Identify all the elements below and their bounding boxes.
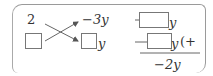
sum-term: −2y (154, 58, 181, 71)
middle-bottom-blank-box[interactable] (81, 33, 97, 49)
right-top-suffix: y (169, 16, 176, 29)
right-top-blank-box[interactable] (139, 12, 169, 28)
middle-top-term: −3y (82, 13, 109, 26)
middle-bottom-suffix: y (98, 37, 105, 50)
left-top-value: 2 (27, 13, 35, 26)
right-bottom-blank-box[interactable] (147, 33, 172, 49)
right-bottom-suffix: y (171, 37, 178, 50)
right-bottom-tail: (+ (180, 35, 196, 48)
left-bottom-blank-box[interactable] (25, 33, 42, 49)
